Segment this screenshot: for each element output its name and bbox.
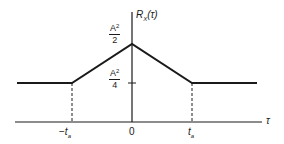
autocorrelation-curve	[17, 44, 257, 83]
plateau-value-label: A2 4	[109, 69, 120, 90]
x-axis-label: τ	[266, 116, 270, 126]
plateau-den: 4	[112, 80, 117, 90]
y-axis-label: RX(τ)	[136, 10, 158, 22]
x-tick-zero: 0	[129, 127, 135, 137]
x-tick-pos-ta: ta	[188, 127, 194, 139]
neg-ta-sub: a	[68, 133, 71, 139]
plateau-exp: 2	[116, 68, 119, 74]
pos-ta-sub: a	[191, 133, 194, 139]
x-tick-neg-ta: −ta	[59, 127, 71, 139]
peak-den: 2	[112, 35, 117, 45]
peak-value-label: A2 2	[109, 24, 120, 45]
peak-exp: 2	[116, 23, 119, 29]
y-label-arg: (τ)	[147, 9, 157, 20]
